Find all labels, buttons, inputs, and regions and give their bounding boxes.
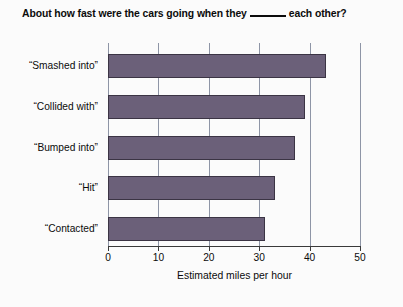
title-blank-rule [250, 15, 286, 17]
bar [108, 54, 326, 78]
category-label: “Smashed into” [29, 60, 98, 71]
plot-area [108, 43, 360, 246]
bar-chart-figure: About how fast were the cars going when … [0, 0, 403, 307]
bar [108, 95, 305, 119]
x-tickmark-40 [310, 247, 311, 251]
x-tickmark-0 [108, 247, 109, 251]
x-tick-label: 30 [244, 252, 274, 263]
bar-row [108, 54, 360, 78]
bar-row [108, 176, 360, 200]
bar-row [108, 217, 360, 241]
bar [108, 217, 265, 241]
bar [108, 176, 275, 200]
x-tick-label: 20 [194, 252, 224, 263]
x-axis-line [108, 246, 361, 247]
gridline-50 [360, 43, 361, 246]
chart-title-suffix: each other? [289, 8, 347, 19]
x-tick-label: 40 [295, 252, 325, 263]
category-label: “Contacted” [45, 223, 98, 234]
x-tick-label: 0 [93, 252, 123, 263]
category-label: “Collided with” [33, 101, 98, 112]
x-tickmark-50 [360, 247, 361, 251]
bar-row [108, 136, 360, 160]
x-axis-title: Estimated miles per hour [108, 270, 361, 281]
x-tickmark-20 [209, 247, 210, 251]
bar-row [108, 95, 360, 119]
bar [108, 136, 295, 160]
category-axis-labels: “Smashed into”“Collided with”“Bumped int… [0, 0, 102, 307]
x-tick-label: 50 [345, 252, 375, 263]
x-tick-label: 10 [143, 252, 173, 263]
x-tickmark-30 [259, 247, 260, 251]
x-tickmark-10 [158, 247, 159, 251]
category-label: “Hit” [79, 182, 98, 193]
category-label: “Bumped into” [34, 142, 98, 153]
